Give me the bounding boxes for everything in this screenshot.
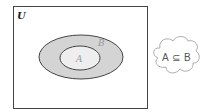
callout-left: A [162,52,169,63]
subset-symbol: ⊆ [172,52,180,63]
set-b-label: B [97,38,105,48]
set-a-label: A [75,54,83,64]
callout-right: B [184,52,191,63]
universe-label: U [17,10,27,21]
callout-cloud: A ⊆ B [154,37,200,73]
venn-diagram: U B A A ⊆ B [0,0,212,112]
